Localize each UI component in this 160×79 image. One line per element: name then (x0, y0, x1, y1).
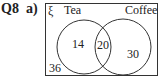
outside-value: 36 (49, 61, 61, 75)
tea-label: Tea (64, 3, 82, 17)
venn-diagram: ξ Tea Coffee 14 20 30 36 (0, 0, 160, 79)
universal-symbol: ξ (48, 4, 54, 18)
intersection-value: 20 (97, 38, 109, 52)
coffee-only-value: 30 (127, 47, 139, 61)
coffee-label: Coffee (125, 3, 157, 17)
tea-only-value: 14 (72, 37, 84, 51)
